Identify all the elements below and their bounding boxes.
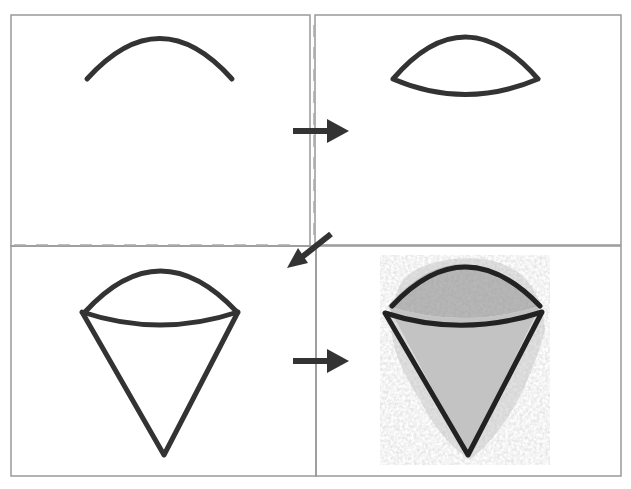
step-4-shaded-cone <box>380 255 550 465</box>
drawing-steps-diagram <box>0 0 631 489</box>
arrow-right-icon <box>293 349 349 373</box>
outer-frame <box>11 15 310 246</box>
step-3-cone <box>82 271 238 455</box>
frame-bottom-left <box>11 246 316 476</box>
arrow-down-left-icon <box>287 234 331 268</box>
step-2-dome <box>393 37 538 95</box>
arrow-right-icon <box>293 119 349 143</box>
step-1-arc <box>87 39 232 80</box>
frame-top-right <box>315 15 621 245</box>
